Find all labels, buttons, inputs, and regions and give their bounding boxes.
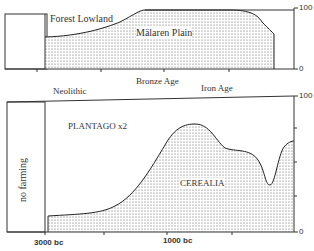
iron-age-label: Iron Age xyxy=(201,83,233,93)
x-tick-3000bc: 3000 bc xyxy=(34,238,63,247)
lower-panel xyxy=(7,96,298,235)
lower-y-max-label: 100 xyxy=(299,91,312,100)
malaren-plain-label: Mälaren Plain xyxy=(136,27,192,38)
x-tick-1000bc: 1000 bc xyxy=(163,236,192,245)
upper-y-max-label: 100 xyxy=(299,3,312,12)
cerealia-area xyxy=(48,124,294,232)
forest-lowland-label: Forest Lowland xyxy=(50,13,113,24)
lower-y-min-label: 0 xyxy=(299,227,303,236)
upper-left-box xyxy=(5,14,47,69)
bronze-age-label: Bronze Age xyxy=(136,76,179,86)
cerealia-label: CEREALIA xyxy=(180,178,225,188)
neolithic-label: Neolithic xyxy=(53,86,87,96)
upper-panel xyxy=(5,8,298,72)
upper-y-min-label: 0 xyxy=(299,64,303,73)
no-farming-label: no farming xyxy=(17,158,28,202)
plantago-label: PLANTAGO x2 xyxy=(68,121,127,131)
